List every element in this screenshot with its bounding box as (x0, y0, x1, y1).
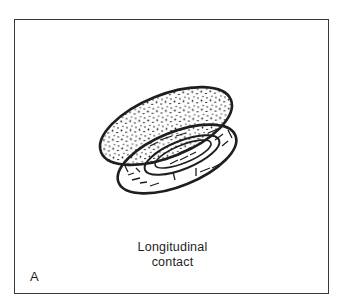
panel-label: A (30, 269, 39, 284)
caption-line-2: contact (0, 255, 345, 270)
figure-caption: Longitudinal contact (0, 240, 345, 270)
caption-line-1: Longitudinal (0, 240, 345, 255)
